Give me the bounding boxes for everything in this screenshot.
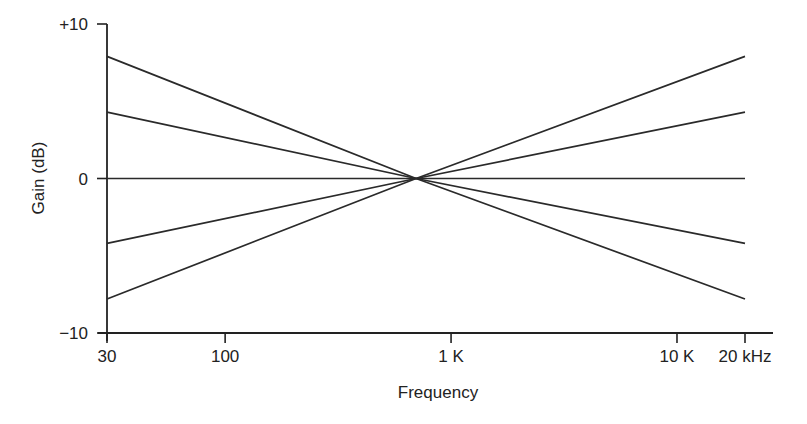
x-tick-label: 20 kHz (719, 347, 772, 366)
tilt-eq-chart: +100−10 301001 K10 K20 kHz Gain (dB) Fre… (0, 0, 807, 424)
x-tick-label: 30 (98, 347, 117, 366)
curves (107, 56, 745, 299)
x-ticks: 301001 K10 K20 kHz (98, 333, 772, 366)
y-axis-title: Gain (dB) (29, 142, 48, 215)
x-tick-label: 1 K (438, 347, 464, 366)
y-tick-label: 0 (79, 170, 88, 189)
x-axis-title: Frequency (398, 383, 479, 402)
x-tick-label: 10 K (659, 347, 695, 366)
y-ticks: +100−10 (59, 15, 107, 343)
y-tick-label: −10 (59, 324, 88, 343)
x-tick-label: 100 (211, 347, 239, 366)
y-tick-label: +10 (59, 15, 88, 34)
